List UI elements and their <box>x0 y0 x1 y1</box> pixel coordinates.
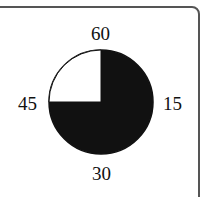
label-60: 60 <box>91 24 110 43</box>
label-30: 30 <box>92 164 111 183</box>
unshaded-sector <box>49 50 101 102</box>
label-45: 45 <box>18 94 37 113</box>
label-15: 15 <box>163 94 182 113</box>
